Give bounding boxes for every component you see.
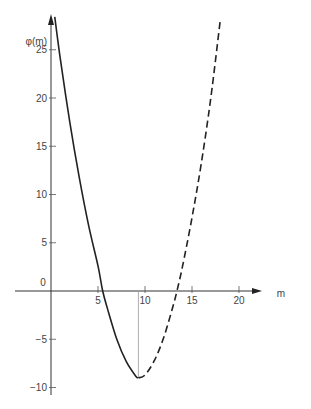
origin-label: 0 (40, 277, 46, 288)
x-tick-label: 5 (95, 295, 101, 306)
curve-solid (55, 17, 139, 378)
chart: 5101520−10−55101520250mφ(m) (0, 0, 311, 409)
y-tick-label: 20 (36, 93, 48, 104)
y-tick-label: 5 (41, 237, 47, 248)
y-tick-label: −5 (36, 334, 48, 345)
y-tick-label: 10 (36, 189, 48, 200)
y-axis-label: φ(m) (26, 36, 47, 47)
y-tick-label: −10 (30, 382, 47, 393)
x-tick-label: 15 (186, 295, 198, 306)
x-tick-label: 10 (139, 295, 151, 306)
x-axis-arrow-icon (252, 288, 262, 294)
x-axis-label: m (277, 288, 285, 299)
curve-dashed (138, 21, 220, 378)
y-axis-arrow-icon (48, 14, 54, 25)
x-tick-label: 20 (233, 295, 245, 306)
y-tick-label: 15 (36, 141, 48, 152)
